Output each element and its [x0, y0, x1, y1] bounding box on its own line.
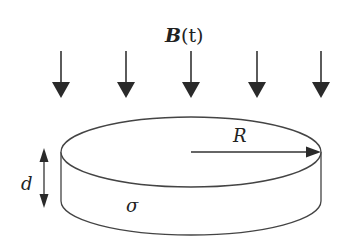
field-symbol: B: [164, 24, 181, 46]
field-argument: (t): [181, 24, 203, 46]
radius-label: R: [232, 125, 247, 146]
conducting-disk: [61, 117, 321, 235]
field-label: B(t): [164, 24, 204, 46]
field-arrow-4-icon: [248, 51, 266, 98]
disk-in-magnetic-field-diagram: B(t) R: [0, 0, 357, 239]
thickness-label: d: [21, 173, 33, 194]
field-arrow-1-icon: [52, 51, 70, 98]
thickness-arrow: [40, 148, 49, 208]
field-arrow-3-icon: [182, 51, 200, 98]
field-arrow-2-icon: [117, 51, 135, 98]
field-arrow-5-icon: [312, 51, 330, 98]
conductivity-label: σ: [126, 195, 139, 216]
magnetic-field-arrows: [52, 51, 330, 98]
